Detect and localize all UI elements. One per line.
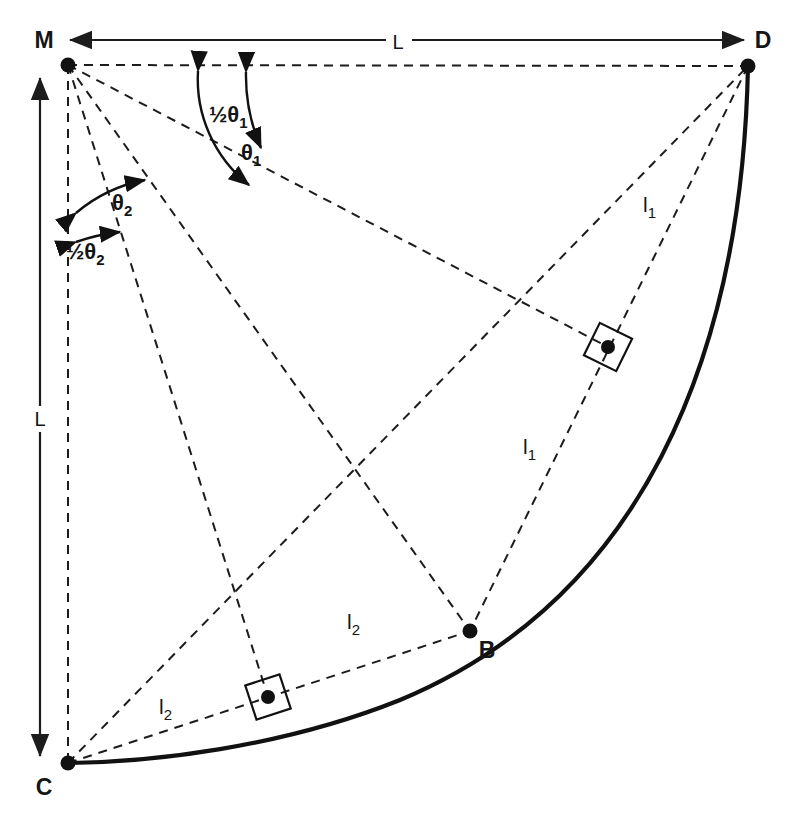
arc-half-theta1 xyxy=(246,72,261,148)
angle-label-half-theta1: ½θ1 xyxy=(209,102,248,131)
vertex-midpoint-CB xyxy=(261,690,275,704)
segment-label-l2-lower: l2 xyxy=(159,695,172,723)
point-label-B: B xyxy=(479,637,496,663)
geometry-diagram: M D C B L L θ1 ½θ1 θ2 ½θ2 l1 l1 l2 l2 xyxy=(0,0,798,813)
dimension-label-left: L xyxy=(34,408,45,430)
dimension-label-top: L xyxy=(392,31,403,53)
vertex-D xyxy=(741,59,756,74)
vertex-B xyxy=(463,624,478,639)
line-M-to-B xyxy=(68,65,470,631)
point-label-M: M xyxy=(34,27,53,53)
line-M-to-midpoint-CB xyxy=(68,65,268,697)
segment-label-l1-lower: l1 xyxy=(523,435,536,463)
line-M-to-D xyxy=(68,65,748,66)
vertex-M xyxy=(61,58,76,73)
diagram-canvas: M D C B L L θ1 ½θ1 θ2 ½θ2 l1 l1 l2 l2 xyxy=(0,0,798,813)
vertex-midpoint-DB xyxy=(601,340,615,354)
segment-label-l2-upper: l2 xyxy=(347,610,360,638)
line-M-to-midpoint-DB xyxy=(68,65,608,347)
angle-label-half-theta2: ½θ2 xyxy=(66,239,105,268)
diagonal-C-to-D xyxy=(68,66,748,763)
arc-theta2 xyxy=(76,180,145,213)
segment-label-l1-upper: l1 xyxy=(643,193,656,221)
point-label-C: C xyxy=(36,774,53,800)
vertex-C xyxy=(61,756,76,771)
point-label-D: D xyxy=(755,27,772,53)
angle-label-theta2: θ2 xyxy=(112,190,132,219)
